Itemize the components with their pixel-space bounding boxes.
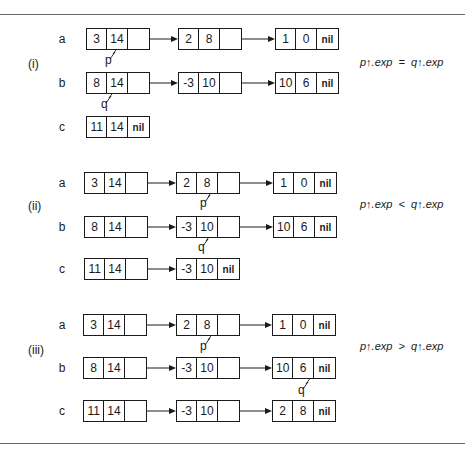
coef-field: 8 [85, 217, 105, 237]
section-label: (ii) [28, 199, 41, 213]
list-name-b: b [56, 361, 68, 375]
link-field: nil [314, 358, 335, 378]
link-field: nil [128, 117, 149, 137]
list-node: 106nil [275, 72, 339, 94]
section-label: (iii) [28, 343, 44, 357]
pointer-p: p [200, 339, 207, 353]
coef-field: 2 [177, 173, 197, 193]
list-node: 10nil [275, 28, 339, 50]
list-name-a: a [56, 176, 68, 190]
link-field [126, 259, 147, 279]
coef-field: 2 [177, 315, 197, 335]
link-field [218, 173, 239, 193]
exp-field: 10 [197, 401, 217, 421]
list-name-b: b [56, 76, 68, 90]
coef-field: 1 [274, 173, 294, 193]
exp-field: 8 [197, 315, 217, 335]
list-node: 28nil [272, 400, 336, 422]
coef-field: -3 [177, 259, 197, 279]
coef-field: 11 [85, 259, 105, 279]
pointer-q: q [101, 97, 108, 111]
link-field: nil [315, 173, 336, 193]
exp-field: 6 [293, 358, 313, 378]
top-rule [0, 14, 465, 15]
link-field: nil [314, 401, 335, 421]
link-field [128, 73, 149, 93]
exp-field: 14 [104, 401, 124, 421]
exp-field: 14 [105, 217, 125, 237]
list-node: -310nil [176, 258, 240, 280]
exp-field: 0 [296, 29, 316, 49]
pointer-p: p [105, 53, 112, 67]
link-field: nil [315, 217, 336, 237]
coef-field: 1 [273, 315, 293, 335]
exp-field: 14 [107, 73, 127, 93]
list-name-b: b [56, 220, 68, 234]
section-label: (i) [28, 57, 39, 71]
list-node: 10nil [272, 314, 336, 336]
coef-field: 2 [179, 29, 199, 49]
coef-field: -3 [177, 217, 197, 237]
coef-field: 3 [85, 173, 105, 193]
list-name-a: a [56, 32, 68, 46]
exp-field: 8 [293, 401, 313, 421]
link-field [218, 401, 239, 421]
exp-field: 8 [199, 29, 219, 49]
exp-field: 8 [197, 173, 217, 193]
exp-field: 10 [199, 73, 219, 93]
pointer-p: p [200, 196, 207, 210]
coef-field: 8 [84, 358, 104, 378]
list-node: -310 [178, 72, 242, 94]
pointer-q: q [198, 240, 205, 254]
exp-field: 10 [197, 259, 217, 279]
exp-field: 10 [197, 358, 217, 378]
list-name-c: c [56, 404, 68, 418]
list-node: 814 [83, 357, 147, 379]
exp-field: 0 [293, 315, 313, 335]
list-node: -310 [176, 216, 240, 238]
coef-field: 8 [87, 73, 107, 93]
coef-field: -3 [177, 358, 197, 378]
link-field [125, 315, 146, 335]
list-node: -310 [176, 400, 240, 422]
link-field: nil [218, 259, 239, 279]
coef-field: 3 [87, 29, 107, 49]
list-node: 314 [83, 314, 147, 336]
link-field [218, 358, 239, 378]
coef-field: 3 [84, 315, 104, 335]
exp-field: 14 [105, 173, 125, 193]
link-field [128, 29, 149, 49]
coef-field: -3 [177, 401, 197, 421]
list-node: 814 [86, 72, 150, 94]
link-field [126, 217, 147, 237]
link-field [218, 315, 239, 335]
list-node: 28 [178, 28, 242, 50]
list-node: 28 [176, 172, 240, 194]
list-node: 106nil [273, 216, 337, 238]
coef-field: 1 [276, 29, 296, 49]
exp-field: 14 [107, 29, 127, 49]
link-field: nil [314, 315, 335, 335]
link-field: nil [317, 29, 338, 49]
exp-field: 10 [197, 217, 217, 237]
list-node: 1114 [83, 400, 147, 422]
bottom-rule [0, 443, 465, 444]
link-field [126, 173, 147, 193]
coef-field: 11 [87, 117, 107, 137]
list-node: 1114nil [86, 116, 150, 138]
exp-field: 6 [294, 217, 314, 237]
link-field: nil [317, 73, 338, 93]
list-node: 106nil [272, 357, 336, 379]
link-field [218, 217, 239, 237]
condition-label: p↑.exp < q↑.exp [360, 198, 443, 210]
coef-field: -3 [179, 73, 199, 93]
list-node: 1114 [84, 258, 148, 280]
coef-field: 11 [84, 401, 104, 421]
list-node: 314 [84, 172, 148, 194]
list-name-a: a [56, 318, 68, 332]
coef-field: 10 [273, 358, 293, 378]
coef-field: 2 [273, 401, 293, 421]
coef-field: 10 [274, 217, 294, 237]
list-node: 10nil [273, 172, 337, 194]
pointer-q: q [298, 383, 305, 397]
